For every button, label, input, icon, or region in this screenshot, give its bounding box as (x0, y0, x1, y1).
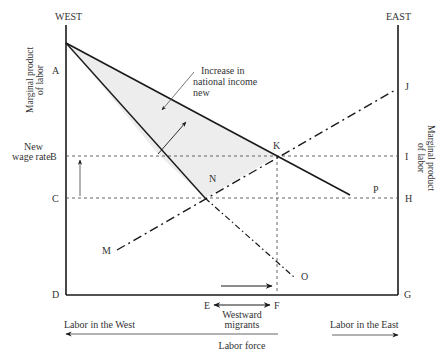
point-p: P (373, 184, 379, 195)
point-i: I (405, 151, 408, 162)
point-n: N (209, 173, 216, 184)
east-header: EAST (386, 11, 411, 22)
point-d: D (52, 289, 59, 300)
point-o: O (301, 271, 308, 282)
point-f: F (274, 300, 280, 311)
point-b: B (50, 151, 57, 162)
west-ylabel-line1: Marginal product (25, 47, 35, 113)
labor-migration-diagram: WEST EAST Marginal product of labor Marg… (0, 0, 446, 357)
increase-label-line3: new (193, 87, 210, 98)
increase-label-line1: Increase in (201, 65, 245, 76)
point-h: H (405, 193, 412, 204)
point-c: C (52, 193, 59, 204)
labor-west-label: Labor in the West (64, 319, 135, 330)
migrants-label-line2: migrants (225, 319, 260, 330)
new-wage-label-line2: wage rate (12, 151, 51, 162)
point-g: G (404, 289, 411, 300)
west-ylabel-line2: of labor (35, 64, 45, 95)
point-a: A (52, 65, 60, 76)
west-header: WEST (55, 11, 82, 22)
labor-east-label: Labor in the East (330, 319, 399, 330)
west-mpl-old-n-o (205, 198, 294, 277)
east-ylabel-line1: Marginal product (426, 125, 436, 191)
point-j: J (405, 81, 409, 92)
point-e: E (204, 300, 210, 311)
point-k: K (273, 140, 281, 151)
east-ylabel-line2: of labor (416, 143, 426, 174)
labor-force-label: Labor force (219, 340, 266, 351)
point-m: M (102, 245, 111, 256)
increase-label-line2: national income (193, 76, 258, 87)
